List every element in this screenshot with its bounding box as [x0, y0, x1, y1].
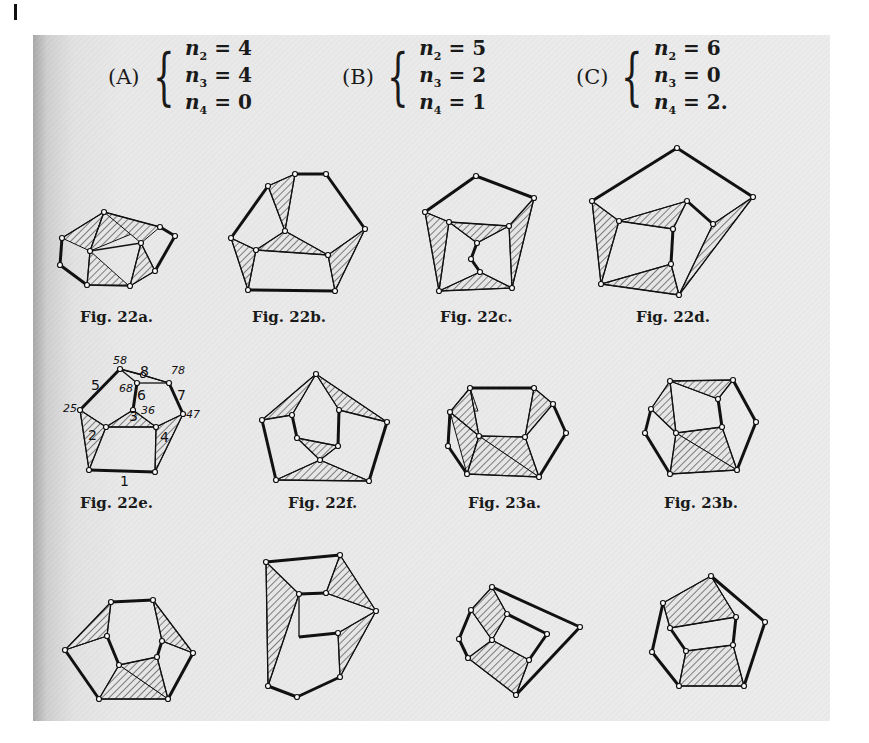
figure-bottom-4	[0, 0, 869, 743]
